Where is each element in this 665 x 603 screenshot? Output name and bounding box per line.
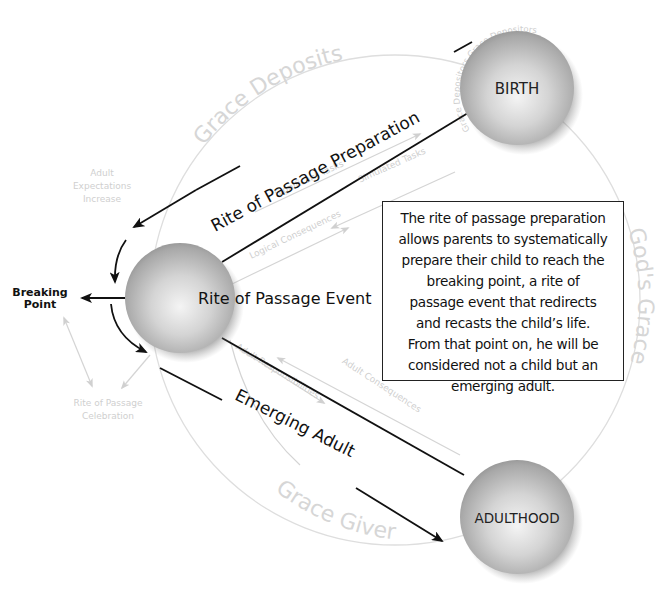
svg-text:Increase: Increase [83, 194, 122, 204]
svg-text:Point: Point [24, 298, 56, 311]
curve-down-arrow [115, 240, 126, 282]
adulthood-label: ADULTHOOD [474, 510, 559, 526]
grace-deposits-label: Grace Deposits [188, 40, 345, 149]
svg-text:Rite of Passage: Rite of Passage [74, 398, 143, 408]
description-line: prepare their child to reach the [387, 250, 619, 271]
description-line: and recasts the child’s life. [387, 313, 619, 334]
birth-label: BIRTH [495, 80, 540, 98]
celebration-label: Rite of Passage Celebration [74, 398, 143, 421]
breaking-celebration-arrow [64, 318, 92, 386]
prep-arrow [134, 190, 196, 227]
svg-text:Celebration: Celebration [82, 411, 134, 421]
event-label: Rite of Passage Event [198, 289, 371, 308]
adulthood-sphere: ADULTHOOD [460, 460, 583, 584]
description-line: emerging adult. [387, 376, 619, 397]
description-line: passage event that redirects [387, 292, 619, 313]
description-line: From that point on, he will be [387, 334, 619, 355]
event-celebration-arrow [122, 355, 150, 388]
description-line: The rite of passage preparation [387, 208, 619, 229]
breaking-point-label: Breaking Point [12, 286, 67, 311]
gods-grace-label: God's Grace [623, 225, 658, 367]
emerging-adult-label: Emerging Adult [232, 385, 359, 462]
svg-text:Adult: Adult [90, 168, 114, 178]
adult-expectations-label: Adult Expectations Increase [73, 168, 131, 204]
rite-of-passage-diagram: Grace Deposits God's Grace Grace Giver G… [0, 0, 665, 603]
description-line: allows parents to systematically [387, 229, 619, 250]
birth-sphere: BIRTH [460, 31, 583, 155]
grace-giver-label: Grace Giver [272, 475, 399, 545]
svg-text:Expectations: Expectations [73, 181, 131, 191]
prep-line-top-left [196, 166, 240, 190]
description-box: The rite of passage preparation allows p… [382, 201, 624, 381]
description-line: breaking point, a rite of [387, 271, 619, 292]
description-line: considered not a child but an [387, 355, 619, 376]
